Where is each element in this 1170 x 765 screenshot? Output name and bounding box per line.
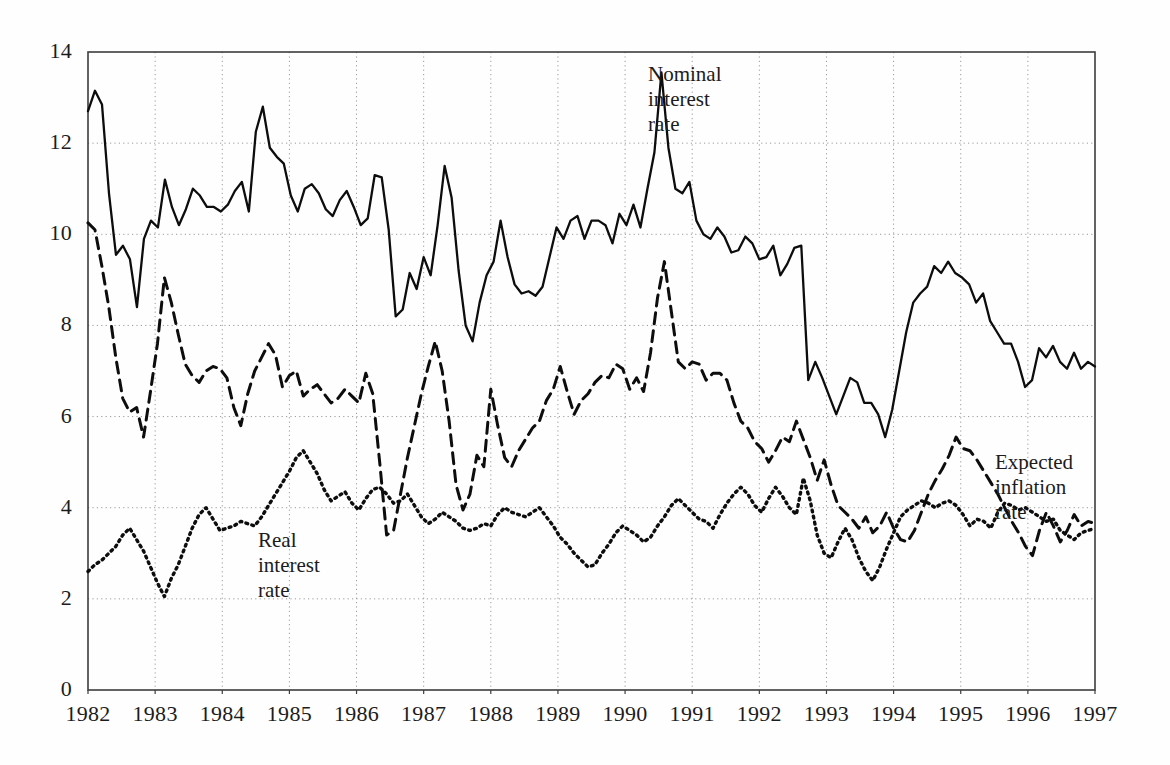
grid-lines xyxy=(88,52,1095,690)
nominal-interest-rate-label: Nominal interest rate xyxy=(648,62,722,136)
y-tick-label-10: 10 xyxy=(20,220,72,246)
series-expected_inflation_rate xyxy=(88,223,1095,556)
y-tick-label-2: 2 xyxy=(20,585,72,611)
series-real_interest_rate xyxy=(88,451,1095,597)
real-interest-rate-label: Real interest rate xyxy=(258,528,320,602)
interest-rate-line-chart xyxy=(0,0,1170,765)
y-tick-label-4: 4 xyxy=(20,494,72,520)
x-tick-label-1997: 1997 xyxy=(1050,701,1140,727)
y-tick-label-0: 0 xyxy=(20,676,72,702)
plot-frame xyxy=(88,52,1095,694)
y-tick-label-14: 14 xyxy=(20,38,72,64)
y-tick-label-12: 12 xyxy=(20,129,72,155)
expected-inflation-rate-label: Expected inflation rate xyxy=(995,450,1073,524)
series-nominal_interest_rate xyxy=(88,73,1095,438)
chart-figure: 14121086420 1982198319841985198619871988… xyxy=(0,0,1170,765)
y-tick-label-8: 8 xyxy=(20,311,72,337)
series-lines xyxy=(88,73,1095,597)
y-tick-label-6: 6 xyxy=(20,403,72,429)
